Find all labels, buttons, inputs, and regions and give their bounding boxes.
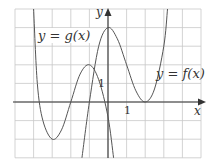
y-tick-1: 1	[98, 77, 105, 90]
x-tick-1: 1	[124, 104, 131, 117]
y-axis-label: y	[96, 5, 103, 19]
g-curve-label: y = g(x)	[38, 28, 90, 43]
f-curve-label: y = f(x)	[156, 66, 205, 81]
x-axis-label: x	[194, 104, 201, 118]
graph-canvas	[0, 0, 212, 165]
